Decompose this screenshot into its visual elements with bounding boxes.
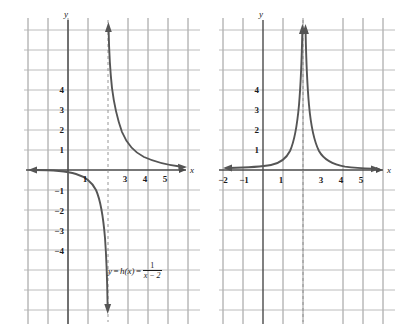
equation-left-eq2: = [136, 266, 141, 276]
y-tick-left-1: 1 [60, 145, 65, 155]
x-tick-right-1: 1 [279, 175, 284, 185]
equation-label-left: y = h(x) = 1 x − 2 [108, 262, 162, 280]
x-tick-left-1: 1 [83, 174, 88, 184]
curve-k-branch-left [229, 32, 302, 168]
y-tick-left-m2: −2 [54, 206, 64, 216]
equation-left-denominator: x − 2 [143, 270, 162, 280]
equation-left-lhs1: y [108, 266, 112, 276]
x-tick-right-5: 5 [359, 175, 364, 185]
y-tick-left-m3: −3 [54, 226, 64, 236]
y-tick-left-2: 2 [60, 125, 65, 135]
y-tick-right-3: 3 [255, 105, 260, 115]
equation-left-lhs2: h(x) [120, 266, 135, 276]
x-tick-left-3: 3 [123, 174, 128, 184]
x-tick-right-m2: −2 [218, 175, 228, 185]
equation-left-eq1: = [114, 266, 119, 276]
y-tick-labels-right: 4 3 2 1 [255, 85, 260, 155]
x-tick-right-m1: −1 [239, 175, 249, 185]
equation-left-fraction: 1 x − 2 [143, 262, 162, 280]
x-tick-right-3: 3 [319, 175, 324, 185]
y-tick-left-m1: −1 [54, 186, 64, 196]
x-axis-label-right: x [386, 165, 391, 175]
graph-right-svg: y x −2 −1 1 3 4 5 4 3 2 1 [205, 0, 410, 327]
curve-arrow-left-upper [28, 167, 37, 174]
figure-container: y x 1 3 4 5 4 3 2 1 −1 −2 −3 −4 [0, 0, 410, 327]
y-tick-right-4: 4 [255, 85, 260, 95]
y-tick-left-m4: −4 [54, 246, 64, 256]
graph-panel-right: y x −2 −1 1 3 4 5 4 3 2 1 y = k(x) [205, 0, 410, 327]
x-tick-left-5: 5 [163, 174, 168, 184]
curve-arrow-down [104, 304, 111, 314]
y-tick-right-2: 2 [255, 125, 260, 135]
graph-left-svg: y x 1 3 4 5 4 3 2 1 −1 −2 −3 −4 [0, 0, 205, 327]
x-axis-label-left: x [189, 165, 194, 175]
curve-h-branch-right [109, 30, 180, 167]
curve-arrow-up [105, 22, 112, 32]
equation-left-numerator: 1 [148, 262, 156, 271]
y-tick-left-4: 4 [60, 85, 65, 95]
y-axis-label-left: y [63, 9, 68, 19]
y-tick-left-3: 3 [60, 105, 65, 115]
x-tick-right-4: 4 [339, 175, 344, 185]
x-tick-left-4: 4 [143, 174, 148, 184]
y-tick-right-1: 1 [255, 145, 260, 155]
x-tick-labels-left: 1 3 4 5 [83, 174, 168, 184]
graph-panel-left: y x 1 3 4 5 4 3 2 1 −1 −2 −3 −4 [0, 0, 205, 327]
x-tick-labels-right: −2 −1 1 3 4 5 [218, 175, 364, 185]
y-axis-label-right: y [258, 9, 263, 19]
